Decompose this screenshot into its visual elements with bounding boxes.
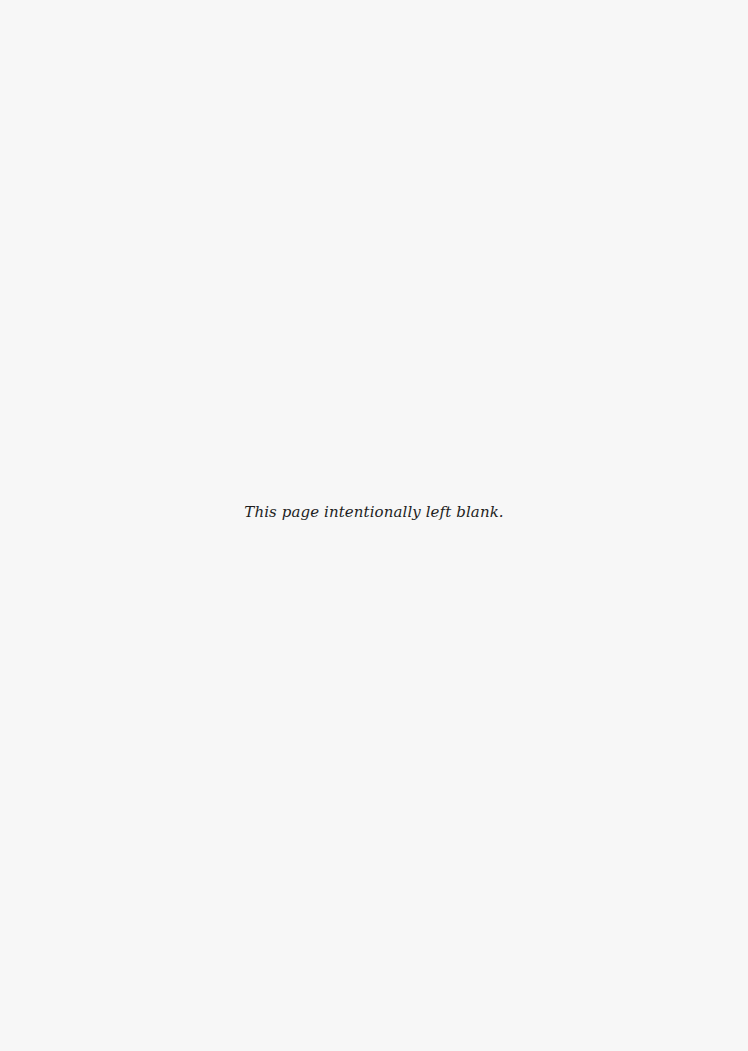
document-page: This page intentionally left blank. <box>0 0 748 1051</box>
blank-page-notice: This page intentionally left blank. <box>0 503 748 521</box>
